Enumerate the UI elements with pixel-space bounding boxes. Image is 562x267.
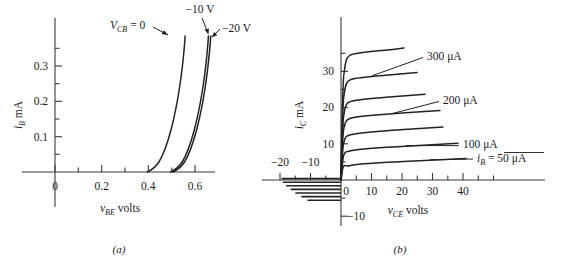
panel-b-label-100ua-text: 100 μA	[463, 138, 498, 151]
panel-a-y-axis-label: iB mA	[12, 100, 27, 129]
svg-text:iB = 50 μA: iB = 50 μA	[477, 152, 527, 167]
panel-b-xtick-20: 20	[396, 185, 408, 197]
panel-a-ylabel-unit: mA	[12, 100, 24, 118]
panel-b-xlabel-sub: CE	[393, 210, 403, 219]
panel-a-ann-minus10-label: −10 V	[186, 3, 216, 15]
panel-a-x-axis-label: vBE volts	[100, 202, 141, 217]
panel-a-ytick-03: 0.3	[34, 60, 49, 72]
panel-a-y-ticks	[55, 48, 62, 154]
panel-a-xtick-02: 0.2	[95, 180, 110, 192]
panel-b-ytick-30: 30	[323, 65, 335, 77]
panel-b-xlabel-unit: volts	[406, 204, 429, 216]
svg-text:vBE volts: vBE volts	[100, 202, 141, 217]
figure-svg: 0 0.2 0.4 0.6 0.1 0.2 0.3 vBE volts iB m…	[0, 0, 562, 267]
svg-text:iC mA: iC mA	[293, 100, 308, 129]
panel-a-xtick-0: 0	[52, 180, 58, 192]
panel-b-label-ib-50ua: iB = 50 μA	[430, 152, 544, 167]
panel-b-curve-300ua	[341, 73, 417, 180]
svg-text:iB mA: iB mA	[12, 100, 27, 129]
panel-b-y-axis-label: iC mA	[293, 100, 308, 129]
panel-a-xtick-04: 0.4	[141, 180, 156, 192]
panel-b-x-axis-label: vCE volts	[388, 204, 429, 219]
panel-a-xtick-06: 0.6	[188, 180, 203, 192]
transistor-characteristics-figure: 0 0.2 0.4 0.6 0.1 0.2 0.3 vBE volts iB m…	[0, 0, 562, 267]
panel-b-ytick-10: 10	[323, 138, 335, 150]
panel-b-curve-150ua	[341, 127, 443, 180]
panel-a-annotation-minus10v: −10 V	[186, 3, 216, 35]
panel-a: 0 0.2 0.4 0.6 0.1 0.2 0.3 vBE volts iB m…	[12, 3, 252, 256]
svg-text:VCB = 0: VCB = 0	[110, 19, 146, 34]
panel-a-xlabel-unit: volts	[118, 202, 141, 214]
panel-b-reverse-fan	[282, 179, 342, 201]
panel-a-curve-vcb-0	[147, 36, 185, 172]
panel-b-caption: (b)	[394, 243, 407, 256]
panel-b-curve-250ua	[341, 94, 425, 180]
panel-a-ann-minus20-label: −20 V	[222, 22, 252, 34]
panel-b: −20 −10 0 10 20 30 40 10 20 30 −10 vCE v…	[262, 17, 545, 256]
panel-a-annotation-vcb-zero: VCB = 0	[110, 19, 168, 35]
panel-a-ytick-02: 0.2	[34, 95, 49, 107]
panel-b-ylabel-unit: mA	[293, 100, 305, 118]
panel-a-ytick-01: 0.1	[34, 131, 49, 143]
panel-b-label-100ua: 100 μA	[406, 138, 498, 151]
panel-a-xlabel-sub: BE	[105, 208, 115, 217]
panel-a-curve-minus20	[173, 36, 211, 172]
svg-text:vCE volts: vCE volts	[388, 204, 429, 219]
panel-b-xtick-10: 10	[366, 185, 378, 197]
panel-a-caption: (a)	[113, 243, 126, 256]
panel-b-xtick-40: 40	[457, 185, 469, 197]
panel-b-ytick-20: 20	[323, 101, 335, 113]
panel-b-label-300ua-text: 300 μA	[427, 50, 462, 63]
panel-a-ann-vcb-tail: = 0	[127, 19, 145, 31]
panel-b-label-ib-eq: =	[485, 152, 497, 164]
panel-b-xtick-m10: −10	[302, 156, 320, 168]
panel-b-label-200ua-text: 200 μA	[443, 94, 478, 107]
panel-b-xtick-30: 30	[427, 185, 439, 197]
panel-a-annotation-minus20v: −20 V	[212, 22, 252, 38]
panel-b-xtick-0: 0	[343, 185, 349, 197]
panel-a-ann-vcb-sub: CB	[117, 25, 127, 34]
panel-b-xtick-m20: −20	[271, 156, 289, 168]
panel-b-ytick-minus10: −10	[347, 210, 365, 222]
panel-b-label-ib-value: 50 μA	[497, 152, 527, 165]
